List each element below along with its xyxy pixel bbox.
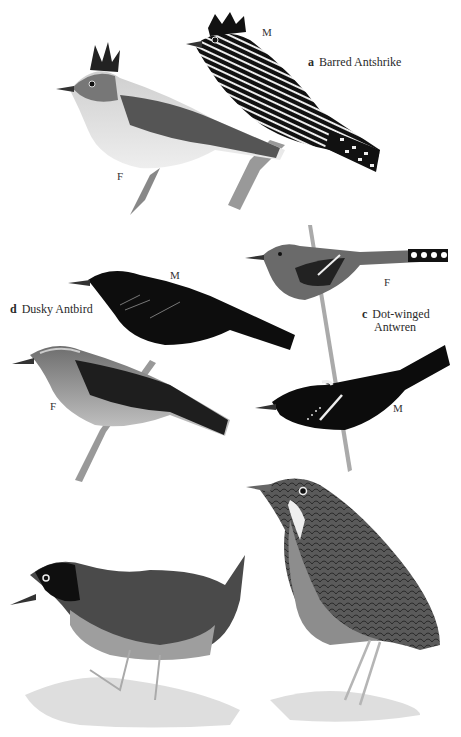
antthrush-figure xyxy=(10,555,245,728)
species-name-line2: Antwren xyxy=(362,320,416,334)
species-letter: a xyxy=(308,55,314,69)
species-label-barred-antshrike: aBarred Antshrike xyxy=(308,56,401,69)
species-letter: d xyxy=(10,302,17,316)
species-letter: c xyxy=(362,307,367,321)
species-name-line1: Dot-winged xyxy=(372,307,429,321)
species-label-dot-winged-antwren: cDot-winged Antwren xyxy=(362,308,430,334)
dot-winged-antwren-female xyxy=(245,244,448,300)
dusky-antbird-female xyxy=(12,346,230,436)
antpitta-figure xyxy=(246,479,440,722)
tail-spots xyxy=(408,249,448,262)
sex-label-dot-winged-antwren-female: F xyxy=(384,276,390,288)
sex-label-barred-antshrike-male: M xyxy=(262,26,272,38)
dusky-antbird-male xyxy=(68,271,295,350)
species-label-dusky-antbird: dDusky Antbird xyxy=(10,303,93,316)
bird-illustrations xyxy=(0,0,461,737)
sex-label-dot-winged-antwren-male: M xyxy=(393,402,403,414)
field-guide-plate: M aBarred Antshrike F F cDot-winged Antw… xyxy=(0,0,461,737)
dot-winged-antwren-male xyxy=(255,345,450,430)
sex-label-barred-antshrike-female: F xyxy=(117,170,123,182)
species-name: Dusky Antbird xyxy=(22,302,93,316)
sex-label-dusky-antbird-male: M xyxy=(170,269,180,281)
species-name: Barred Antshrike xyxy=(319,55,401,69)
sex-label-dusky-antbird-female: F xyxy=(50,400,56,412)
